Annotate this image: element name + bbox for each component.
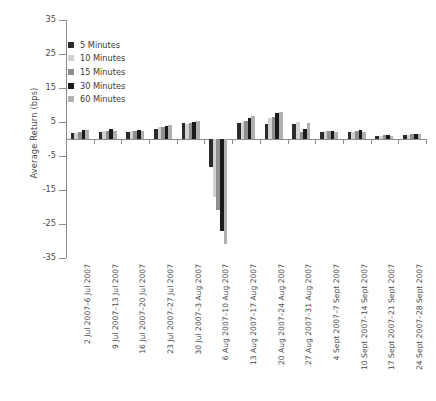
- legend-label: 5 Minutes: [80, 40, 120, 50]
- y-axis-title: Average Return (bps): [29, 53, 39, 213]
- x-axis-label: 16 Jul 2007–20 Jul 2007: [138, 264, 147, 394]
- bar: [251, 116, 255, 139]
- bar: [141, 131, 145, 139]
- bar: [113, 131, 117, 139]
- bar-chart: Average Return (bps) 3525155-5-15-25-35 …: [0, 0, 436, 401]
- y-axis-tick: -5: [59, 156, 66, 157]
- bar: [307, 123, 311, 139]
- y-axis-tick-label: -35: [43, 252, 56, 262]
- legend-label: 15 Minutes: [80, 67, 125, 77]
- bar-group: [204, 20, 232, 258]
- x-axis-label: 13 Aug 2007–17 Aug 2007: [249, 264, 258, 394]
- legend-label: 30 Minutes: [80, 81, 125, 91]
- y-axis-tick: 15: [59, 88, 66, 89]
- y-axis-tick: 25: [59, 54, 66, 55]
- bar: [85, 130, 89, 139]
- y-axis-tick: -15: [59, 190, 66, 191]
- legend-item[interactable]: 15 Minutes: [68, 65, 178, 79]
- y-axis-tick: -25: [59, 224, 66, 225]
- y-axis-tick-label: -25: [43, 218, 56, 228]
- legend-swatch-icon: [68, 83, 74, 89]
- legend-label: 60 Minutes: [80, 94, 125, 104]
- bar-group: [288, 20, 316, 258]
- y-axis-tick-label: -15: [43, 184, 56, 194]
- y-axis-tick-label: 35: [46, 14, 56, 24]
- legend-swatch-icon: [68, 96, 74, 102]
- x-axis-label: 27 Aug 2007–31 Aug 2007: [304, 264, 313, 394]
- x-axis-label: 24 Sept 2007–28 Sept 2007: [415, 264, 424, 394]
- legend-label: 10 Minutes: [80, 53, 125, 63]
- legend-item[interactable]: 60 Minutes: [68, 92, 178, 106]
- x-axis-label: 23 Jul 2007–27 Jul 2007: [166, 264, 175, 394]
- legend-swatch-icon: [68, 42, 74, 48]
- bar-group: [343, 20, 371, 258]
- x-axis-label: 6 Aug 2007–10 Aug 2007: [221, 264, 230, 394]
- x-axis-label: 17 Sept 2007–21 Sept 2007: [387, 264, 396, 394]
- x-axis-label: 9 Jul 2007–13 Jul 2007: [111, 264, 120, 394]
- legend-swatch-icon: [68, 69, 74, 75]
- bar-group: [371, 20, 399, 258]
- legend-swatch-icon: [68, 55, 74, 61]
- bar: [418, 134, 422, 139]
- bar: [224, 139, 228, 244]
- bar: [196, 121, 200, 139]
- bar: [279, 112, 283, 139]
- legend-item[interactable]: 10 Minutes: [68, 52, 178, 66]
- legend-item[interactable]: 30 Minutes: [68, 79, 178, 93]
- legend-item[interactable]: 5 Minutes: [68, 38, 178, 52]
- x-axis-label: 30 Jul 2007–3 Aug 2007: [194, 264, 203, 394]
- x-axis-label: 4 Sept 2007–7 Sept 2007: [332, 264, 341, 394]
- bar: [334, 132, 338, 139]
- y-axis-tick-label: -5: [48, 150, 56, 160]
- y-axis-tick-label: 25: [46, 48, 56, 58]
- bar-group: [398, 20, 426, 258]
- bar: [168, 125, 172, 139]
- y-axis-tick: 5: [59, 122, 66, 123]
- y-axis-tick-label: 15: [46, 82, 56, 92]
- x-axis-label: 2 Jul 2007–6 Jul 2007: [83, 264, 92, 394]
- y-axis-tick: -35: [59, 258, 66, 259]
- x-axis-labels: 2 Jul 2007–6 Jul 20079 Jul 2007–13 Jul 2…: [66, 264, 426, 399]
- bar-group: [232, 20, 260, 258]
- x-axis-tick: [426, 139, 427, 144]
- bar: [362, 132, 366, 139]
- bar-group: [177, 20, 205, 258]
- x-axis-label: 20 Aug 2007–24 Aug 2007: [277, 264, 286, 394]
- x-axis-label: 10 Sept 2007–14 Sept 2007: [360, 264, 369, 394]
- y-axis-tick: 35: [59, 20, 66, 21]
- y-axis-tick-label: 5: [51, 116, 56, 126]
- bar: [390, 136, 394, 139]
- bar-group: [315, 20, 343, 258]
- chart-legend: 5 Minutes10 Minutes15 Minutes30 Minutes6…: [68, 38, 178, 106]
- bar-group: [260, 20, 288, 258]
